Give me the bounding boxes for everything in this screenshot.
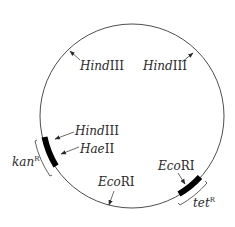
hindIII-top-right-label: HindIII — [142, 59, 187, 73]
plasmid-map: kanR tetR HindIII HindIII HindIII HaeII … — [0, 0, 235, 227]
haeII-left-arrow — [61, 147, 79, 154]
ecoRI-right-arrow — [178, 173, 185, 184]
hindIII-top-left-arrow — [70, 51, 80, 60]
kanR-gene-block — [45, 137, 57, 166]
hindIII-left-label: HindIII — [74, 124, 119, 138]
hindIII-top-left-label: HindIII — [79, 59, 124, 73]
ecoRI-bottom-label: EcoRI — [97, 175, 135, 189]
kanR-label: kanR — [12, 155, 40, 169]
ecoRI-bottom-arrow — [109, 191, 114, 205]
haeII-left-label: HaeII — [79, 142, 114, 156]
hindIII-left-arrow — [55, 132, 74, 139]
tetR-label: tetR — [193, 196, 216, 210]
ecoRI-right-label: EcoRI — [157, 159, 195, 173]
